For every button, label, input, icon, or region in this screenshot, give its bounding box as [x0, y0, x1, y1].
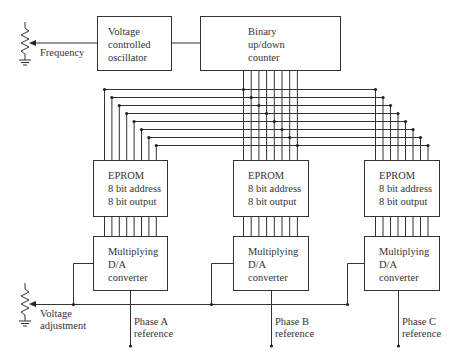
- vco-block: Voltage controlled oscillator: [98, 17, 172, 71]
- phase-c-output: Phase C reference: [397, 291, 441, 348]
- svg-text:Multiplying: Multiplying: [379, 246, 430, 257]
- phase-b-output: Phase B reference: [270, 291, 314, 348]
- svg-text:D/A: D/A: [379, 259, 398, 270]
- eprom-block-b: EPROM 8 bit address 8 bit output: [234, 161, 309, 217]
- svg-text:up/down: up/down: [248, 39, 286, 50]
- svg-text:8 bit output: 8 bit output: [108, 196, 157, 207]
- dac-block-a: Multiplying D/A converter: [94, 237, 168, 291]
- svg-text:reference: reference: [402, 328, 441, 339]
- svg-text:8 bit address: 8 bit address: [248, 183, 301, 194]
- svg-text:EPROM: EPROM: [108, 170, 145, 181]
- svg-text:Voltage: Voltage: [108, 26, 140, 37]
- svg-text:counter: counter: [248, 52, 280, 63]
- svg-text:reference: reference: [134, 328, 173, 339]
- svg-text:Phase C: Phase C: [402, 316, 436, 327]
- data-lines-a: [105, 216, 157, 236]
- counter-block: Binary up/down counter: [201, 17, 341, 71]
- phase-a-output: Phase A reference: [129, 291, 173, 348]
- svg-text:Phase A: Phase A: [134, 316, 169, 327]
- address-bus: [103, 70, 430, 160]
- dac-block-b: Multiplying D/A converter: [234, 237, 309, 291]
- voltage-reference-bus: [36, 264, 365, 307]
- svg-text:Multiplying: Multiplying: [248, 246, 299, 257]
- voltage-potentiometer-icon: [19, 283, 36, 326]
- data-lines-b: [244, 216, 298, 236]
- svg-text:controlled: controlled: [108, 39, 151, 50]
- svg-text:8 bit address: 8 bit address: [108, 183, 161, 194]
- frequency-potentiometer-icon: [19, 22, 36, 65]
- svg-text:Multiplying: Multiplying: [108, 246, 159, 257]
- eprom-block-c: EPROM 8 bit address 8 bit output: [365, 161, 440, 217]
- svg-text:8 bit output: 8 bit output: [379, 196, 428, 207]
- three-phase-generator-diagram: Frequency Voltage controlled oscillator …: [0, 0, 454, 363]
- svg-text:EPROM: EPROM: [379, 170, 416, 181]
- data-lines-c: [376, 216, 429, 236]
- svg-text:Binary: Binary: [248, 26, 277, 37]
- voltage-label-line2: adjustment: [40, 320, 86, 331]
- voltage-label-line1: Voltage: [40, 308, 72, 319]
- svg-text:reference: reference: [275, 328, 314, 339]
- frequency-label: Frequency: [40, 47, 85, 58]
- svg-text:Phase B: Phase B: [275, 316, 309, 327]
- svg-text:converter: converter: [108, 272, 148, 283]
- eprom-block-a: EPROM 8 bit address 8 bit output: [94, 161, 168, 217]
- svg-text:D/A: D/A: [108, 259, 127, 270]
- svg-text:converter: converter: [379, 272, 419, 283]
- dac-block-c: Multiplying D/A converter: [365, 237, 440, 291]
- svg-text:converter: converter: [248, 272, 288, 283]
- svg-text:8 bit address: 8 bit address: [379, 183, 432, 194]
- svg-text:8 bit output: 8 bit output: [248, 196, 297, 207]
- svg-text:EPROM: EPROM: [248, 170, 285, 181]
- svg-text:D/A: D/A: [248, 259, 267, 270]
- svg-text:oscillator: oscillator: [108, 52, 148, 63]
